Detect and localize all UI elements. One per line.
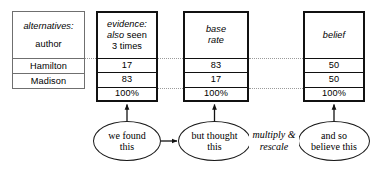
node-but-thought-this: but thought this — [178, 121, 251, 161]
belief-label: belief — [323, 30, 345, 41]
base-rate-total: 100% — [204, 88, 228, 99]
evidence-label: evidence: — [107, 19, 147, 30]
row-label-madison: Madison — [31, 76, 66, 87]
table-row: Madison — [13, 73, 84, 88]
evidence-total: 100% — [115, 88, 139, 99]
node-but-thought-this-text: but thought this — [192, 130, 238, 153]
node-thought-line1: but thought — [192, 130, 238, 141]
node-and-so-believe-this: and so believe this — [298, 121, 370, 161]
table-total-row: 100% — [185, 87, 247, 100]
evidence-also-word: also — [107, 30, 124, 40]
dotted-connector-row1-left — [85, 58, 96, 59]
table-belief: belief 50 50 100% — [303, 11, 365, 102]
diagram-canvas: alternatives: author Hamilton Madison ev… — [0, 0, 374, 170]
edge-label-line2: rescale — [260, 141, 289, 152]
belief-value-hamilton: 50 — [329, 60, 339, 71]
table-row: 17 — [185, 72, 247, 87]
node-we-found-this: we found this — [93, 121, 161, 161]
base-rate-value-hamilton: 83 — [211, 60, 221, 71]
node-believe-line2: believe this — [311, 141, 357, 152]
evidence-subline-also-seen: also seen — [107, 30, 147, 41]
base-rate-header: base rate — [185, 13, 247, 58]
base-rate-value-madison: 17 — [211, 74, 221, 85]
table-total-row: 100% — [305, 87, 363, 100]
dotted-connector-row2-right — [249, 88, 303, 89]
evidence-subline-times: 3 times — [112, 41, 142, 52]
table-total-row: 100% — [98, 87, 156, 100]
evidence-header: evidence: also seen 3 times — [98, 13, 156, 58]
dotted-connector-row1-mid — [158, 58, 183, 59]
dotted-connector-row1-right — [249, 58, 303, 59]
evidence-value-hamilton: 17 — [122, 60, 132, 71]
table-row: 50 — [305, 58, 363, 73]
base-rate-label-line2: rate — [208, 35, 224, 46]
node-believe-line1: and so — [321, 130, 347, 141]
evidence-value-madison: 83 — [122, 74, 132, 85]
node-we-found-this-text: we found this — [108, 130, 146, 153]
table-base-rate: base rate 83 17 100% — [183, 11, 249, 102]
table-row: 83 — [98, 72, 156, 87]
table-row: 83 — [185, 58, 247, 73]
table-evidence: evidence: also seen 3 times 17 83 100% — [96, 11, 158, 102]
belief-total: 100% — [322, 88, 346, 99]
node-and-so-believe-this-text: and so believe this — [311, 130, 357, 153]
node-found-line2: this — [120, 141, 134, 152]
base-rate-label-line1: base — [206, 24, 226, 35]
belief-value-madison: 50 — [329, 74, 339, 85]
dotted-connector-row2-mid — [158, 88, 183, 89]
author-label: author — [35, 39, 61, 50]
node-found-line1: we found — [108, 130, 146, 141]
table-alternatives: alternatives: author Hamilton Madison — [12, 11, 85, 89]
alternatives-header: alternatives: author — [13, 12, 84, 58]
table-row: 17 — [98, 58, 156, 73]
evidence-seen-word: seen — [127, 30, 147, 40]
row-label-hamilton: Hamilton — [30, 61, 67, 72]
belief-header: belief — [305, 13, 363, 58]
edge-label-line1: multiply & — [252, 129, 295, 140]
alternatives-label: alternatives: — [23, 21, 73, 32]
node-thought-line2: this — [207, 141, 221, 152]
table-row: 50 — [305, 72, 363, 87]
edge-label-multiply-rescale: multiply & rescale — [249, 129, 299, 152]
table-row: Hamilton — [13, 58, 84, 73]
